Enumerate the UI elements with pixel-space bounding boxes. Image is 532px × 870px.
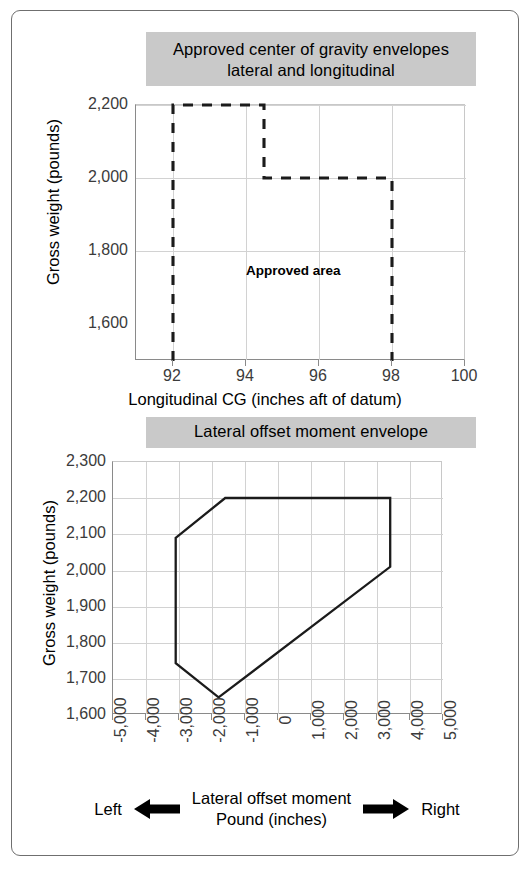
x-axis-title-lateral: Lateral offset moment Pound (inches)	[192, 788, 351, 830]
gridline-v	[392, 105, 393, 360]
x-tickmark	[391, 360, 392, 366]
plot-area-lateral	[112, 461, 442, 714]
gridline-h	[136, 178, 466, 179]
figure-page: Approved center of gravity envelopes lat…	[0, 0, 532, 870]
x-tick-label: -5,000	[112, 697, 130, 742]
x-tick-label: -4,000	[145, 697, 163, 742]
y-tick-label: 1,600	[44, 705, 106, 723]
gridline-v	[173, 105, 174, 360]
x-tickmark	[245, 360, 246, 366]
y-tick-label: 2,000	[66, 168, 128, 186]
gridline-v	[377, 462, 378, 714]
x-axis-title-lateral-line1: Lateral offset moment	[192, 789, 351, 807]
gridline-h	[136, 105, 466, 106]
approved-area-label: Approved area	[246, 263, 341, 278]
y-axis-title-cg: Gross weight (pounds)	[44, 82, 63, 322]
y-tick-label: 1,700	[44, 669, 106, 687]
x-tick-label: 96	[309, 367, 327, 385]
arrow-right-icon	[363, 799, 409, 819]
chart-longitudinal-cg: Approved center of gravity envelopes lat…	[22, 22, 508, 402]
x-tick-label: 0	[277, 716, 295, 725]
y-tick-label: 2,300	[44, 452, 106, 470]
gridline-v	[179, 462, 180, 714]
gridline-v	[410, 462, 411, 714]
chart-title-lateral: Lateral offset moment envelope	[146, 417, 476, 448]
gridline-v	[246, 105, 247, 360]
x-axis-title-cg: Longitudinal CG (inches aft of datum)	[22, 390, 508, 409]
arrow-left-icon	[134, 799, 180, 819]
gridline-h	[136, 251, 466, 252]
y-tick-label: 2,100	[44, 524, 106, 542]
x-axis-caption-lateral: Left Lateral offset moment Pound (inches…	[62, 786, 492, 832]
x-tick-label: -1,000	[244, 697, 262, 742]
x-tickmark	[172, 360, 173, 366]
y-tick-label: 1,900	[44, 597, 106, 615]
x-tick-label: 4,000	[409, 700, 427, 740]
gridline-v	[245, 462, 246, 714]
y-tick-label: 2,200	[44, 488, 106, 506]
x-tick-label: 94	[236, 367, 254, 385]
left-label: Left	[94, 800, 122, 819]
y-tick-label: 2,000	[44, 561, 106, 579]
x-tickmark	[318, 360, 319, 366]
gridline-v	[344, 462, 345, 714]
gridline-v	[278, 462, 279, 714]
x-tick-label: 100	[451, 367, 478, 385]
x-tick-label: 5,000	[442, 700, 460, 740]
plot-area-cg: Approved area	[135, 104, 465, 360]
envelope-path-cg	[136, 105, 466, 361]
chart-title-cg-line1: Approved center of gravity envelopes	[173, 40, 449, 58]
x-tick-label: 3,000	[376, 700, 394, 740]
gridline-v	[146, 462, 147, 714]
x-tick-label: 1,000	[310, 700, 328, 740]
gridline-v	[311, 462, 312, 714]
y-tick-label: 1,800	[44, 633, 106, 651]
x-tick-label: -3,000	[178, 697, 196, 742]
gridline-v	[319, 105, 320, 360]
y-tick-label: 1,800	[66, 241, 128, 259]
x-tickmark	[464, 360, 465, 366]
x-axis-title-lateral-line2: Pound (inches)	[216, 810, 327, 828]
y-tick-label: 2,200	[66, 95, 128, 113]
x-tick-label: 2,000	[343, 700, 361, 740]
chart-lateral-offset-moment: Lateral offset moment envelope Gross wei…	[22, 408, 508, 840]
x-tick-label: -2,000	[211, 697, 229, 742]
chart-title-cg: Approved center of gravity envelopes lat…	[146, 32, 476, 86]
gridline-v	[212, 462, 213, 714]
y-tick-label: 1,600	[66, 314, 128, 332]
x-tick-label: 98	[382, 367, 400, 385]
x-tick-label: 92	[163, 367, 181, 385]
right-label: Right	[421, 800, 460, 819]
chart-title-cg-line2: lateral and longitudinal	[227, 61, 395, 79]
